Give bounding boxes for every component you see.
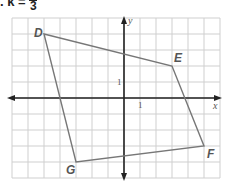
x-tick-1: 1 (138, 100, 143, 110)
coordinate-graph: y x 1 1 D E F G (0, 0, 225, 189)
x-axis (7, 95, 222, 101)
vertex-label-E: E (174, 51, 183, 65)
vertex-label-F: F (207, 147, 215, 161)
x-axis-label: x (212, 100, 218, 111)
arrow-up-icon (121, 16, 127, 24)
arrow-down-icon (121, 173, 127, 181)
vertex-label-G: G (66, 163, 75, 177)
arrow-left-icon (7, 95, 15, 101)
y-tick-1: 1 (117, 77, 122, 87)
vertex-label-D: D (34, 26, 43, 40)
y-axis-label: y (127, 15, 133, 26)
